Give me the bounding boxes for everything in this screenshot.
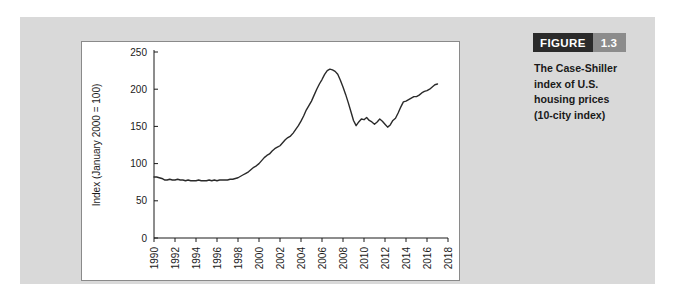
svg-text:Index (January 2000 = 100): Index (January 2000 = 100): [91, 84, 102, 207]
caption-line: (10-city index): [534, 108, 660, 124]
svg-text:2004: 2004: [296, 247, 307, 270]
chart-plot-panel: 050100150200250Index (January 2000 = 100…: [81, 41, 460, 281]
figure-tag-word: FIGURE: [533, 33, 593, 52]
figure-caption-column: FIGURE 1.3 The Case-Shiller index of U.S…: [533, 25, 663, 284]
svg-text:2016: 2016: [422, 247, 433, 270]
svg-text:1990: 1990: [149, 247, 160, 270]
svg-text:50: 50: [136, 195, 148, 206]
caption-line: The Case-Shiller: [534, 61, 660, 77]
svg-text:2010: 2010: [359, 247, 370, 270]
figure-tag-number: 1.3: [593, 33, 626, 52]
svg-text:1998: 1998: [233, 247, 244, 270]
figure-card: 050100150200250Index (January 2000 = 100…: [12, 9, 663, 292]
chart-series-line: [154, 69, 438, 181]
svg-text:0: 0: [141, 233, 147, 244]
figure-gray-panel: 050100150200250Index (January 2000 = 100…: [20, 17, 655, 284]
svg-text:2018: 2018: [443, 247, 454, 270]
figure-tag: FIGURE 1.3: [533, 33, 626, 52]
svg-text:2002: 2002: [275, 247, 286, 270]
svg-text:2014: 2014: [401, 247, 412, 270]
svg-text:2000: 2000: [254, 247, 265, 270]
svg-text:1994: 1994: [191, 247, 202, 270]
svg-text:1996: 1996: [212, 247, 223, 270]
caption-line: housing prices: [534, 92, 660, 108]
svg-text:250: 250: [130, 47, 147, 58]
svg-text:200: 200: [130, 84, 147, 95]
caption-line: index of U.S.: [534, 77, 660, 93]
case-shiller-line-chart: 050100150200250Index (January 2000 = 100…: [82, 42, 459, 280]
svg-text:2006: 2006: [317, 247, 328, 270]
svg-text:2008: 2008: [338, 247, 349, 270]
figure-caption-text: The Case-Shiller index of U.S. housing p…: [534, 61, 660, 123]
svg-text:150: 150: [130, 121, 147, 132]
svg-text:100: 100: [130, 158, 147, 169]
svg-text:1992: 1992: [170, 247, 181, 270]
svg-text:2012: 2012: [380, 247, 391, 270]
